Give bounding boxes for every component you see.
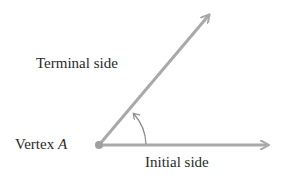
angle-figure: [0, 0, 287, 187]
terminal-side-ray: [99, 15, 209, 145]
angle-arc-icon: [134, 114, 146, 144]
vertex-point: [95, 141, 103, 149]
vertex-label: Vertex A: [15, 137, 67, 152]
vertex-label-prefix: Vertex: [15, 136, 58, 152]
terminal-side-label: Terminal side: [36, 56, 118, 71]
angle-diagram: Terminal side Vertex A Initial side: [0, 0, 287, 187]
vertex-letter: A: [58, 136, 67, 152]
initial-side-label: Initial side: [145, 155, 209, 170]
